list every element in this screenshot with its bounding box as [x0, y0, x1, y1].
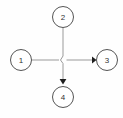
edge-2-to-4-arrowhead-icon [60, 79, 67, 85]
node-3-label: 3 [105, 56, 110, 65]
node-2-label: 2 [61, 13, 66, 22]
edge-1-to-3-arrowhead-icon [92, 57, 97, 64]
node-1-label: 1 [19, 56, 24, 65]
node-4[interactable]: 4 [53, 87, 74, 108]
diagram-svg: 1 2 3 4 [0, 0, 123, 118]
node-1[interactable]: 1 [11, 50, 32, 71]
node-2[interactable]: 2 [53, 7, 74, 28]
node-3[interactable]: 3 [97, 50, 118, 71]
diagram-canvas: 1 2 3 4 [0, 0, 123, 118]
edge-2-to-4[interactable] [60, 28, 67, 85]
edge-1-to-3[interactable] [32, 57, 97, 64]
node-4-label: 4 [61, 93, 66, 102]
edge-2-to-4-line [61, 28, 64, 80]
